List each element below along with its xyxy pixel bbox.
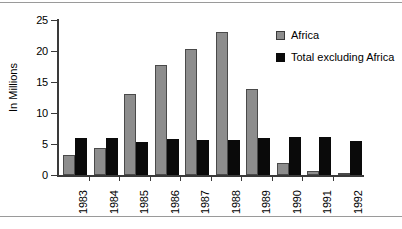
y-tick-25 xyxy=(51,20,57,21)
legend-item-total-excluding-africa: Total excluding Africa xyxy=(276,52,402,63)
y-tick-label-text: 25 xyxy=(20,15,48,26)
x-axis-label-1991: 1991 xyxy=(322,190,333,214)
x-tick-1985 xyxy=(119,176,120,181)
bar-total-excluding-africa-1988 xyxy=(228,140,240,175)
bar-africa-1989 xyxy=(246,89,258,175)
x-axis-label-1990: 1990 xyxy=(292,190,303,214)
bar-total-excluding-africa-1985 xyxy=(136,142,148,175)
y-axis-title: In Millions xyxy=(8,48,19,128)
bar-group-1988 xyxy=(216,20,240,175)
bar-group-1983 xyxy=(63,20,87,175)
y-tick-label-5: 5 xyxy=(20,139,48,150)
x-axis-label-1984: 1984 xyxy=(109,190,120,214)
bar-africa-1990 xyxy=(277,163,289,175)
bar-africa-1987 xyxy=(185,49,197,175)
bar-africa-1986 xyxy=(155,65,167,175)
bar-africa-1984 xyxy=(94,148,106,175)
x-axis-label-1988: 1988 xyxy=(231,190,242,214)
x-tick-1988 xyxy=(211,176,212,181)
y-tick-label-text: 15 xyxy=(20,77,48,88)
x-tick-1992 xyxy=(333,176,334,181)
bar-chart-figure: In Millions 0510152025 19831984198519861… xyxy=(0,0,402,229)
bar-total-excluding-africa-1989 xyxy=(258,138,270,175)
bar-africa-1983 xyxy=(63,155,75,175)
bar-group-1984 xyxy=(94,20,118,175)
y-tick-label-text: 0 xyxy=(20,170,48,181)
y-tick-label-text: 20 xyxy=(20,46,48,57)
y-tick-label-10: 10 xyxy=(20,108,48,119)
bar-group-1987 xyxy=(185,20,209,175)
bar-total-excluding-africa-1990 xyxy=(289,137,301,175)
y-tick-label-25: 25 xyxy=(20,15,48,26)
bar-total-excluding-africa-1987 xyxy=(197,140,209,175)
bar-total-excluding-africa-1983 xyxy=(75,138,87,175)
y-tick-label-0: 0 xyxy=(20,170,48,181)
legend-label-africa: Africa xyxy=(291,30,319,41)
legend-item-africa: Africa xyxy=(276,30,402,41)
black-swatch-icon xyxy=(276,53,285,62)
x-axis-label-1986: 1986 xyxy=(170,190,181,214)
y-tick-10 xyxy=(51,113,57,114)
bar-total-excluding-africa-1991 xyxy=(319,137,331,175)
x-axis-label-1989: 1989 xyxy=(261,190,272,214)
bar-africa-1991 xyxy=(307,171,319,175)
bar-group-1989 xyxy=(246,20,270,175)
bar-group-1986 xyxy=(155,20,179,175)
bar-total-excluding-africa-1984 xyxy=(106,138,118,175)
y-tick-5 xyxy=(51,144,57,145)
x-axis-label-1983: 1983 xyxy=(78,190,89,214)
page-rule-bottom xyxy=(0,216,402,217)
x-axis-label-1987: 1987 xyxy=(200,190,211,214)
bar-total-excluding-africa-1992 xyxy=(350,141,362,175)
bar-africa-1988 xyxy=(216,32,228,175)
y-tick-20 xyxy=(51,51,57,52)
y-tick-15 xyxy=(51,82,57,83)
bar-group-1985 xyxy=(124,20,148,175)
x-tick-1991 xyxy=(302,176,303,181)
gray-swatch-icon xyxy=(276,31,285,40)
bar-africa-1992 xyxy=(338,173,350,175)
bar-africa-1985 xyxy=(124,94,136,175)
x-axis-label-1992: 1992 xyxy=(353,190,364,214)
x-tick-1989 xyxy=(241,176,242,181)
x-tick-1987 xyxy=(180,176,181,181)
bar-total-excluding-africa-1986 xyxy=(167,139,179,175)
x-tick-1984 xyxy=(89,176,90,181)
y-tick-label-20: 20 xyxy=(20,46,48,57)
y-tick-0 xyxy=(51,175,57,176)
legend-label-total-excluding-africa: Total excluding Africa xyxy=(291,52,394,63)
x-axis-label-1985: 1985 xyxy=(139,190,150,214)
chart-legend: Africa Total excluding Africa xyxy=(276,30,402,74)
y-tick-label-text: 5 xyxy=(20,139,48,150)
y-tick-label-15: 15 xyxy=(20,77,48,88)
x-tick-1986 xyxy=(150,176,151,181)
page-rule-top xyxy=(0,2,402,3)
y-tick-label-text: 10 xyxy=(20,108,48,119)
x-tick-1990 xyxy=(272,176,273,181)
